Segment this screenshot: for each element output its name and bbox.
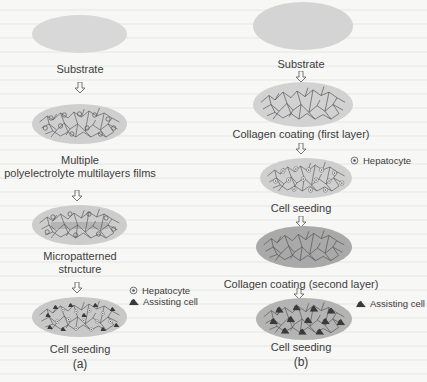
step-label-line1: Micropatterned [43,250,116,263]
panel-caption: (b) [294,356,309,369]
panel-caption: (a) [73,358,88,371]
legend-assisting-cell: Assisting cell [129,296,198,307]
assisting-cell-icon [129,298,139,306]
legend-label: Assisting cell [370,298,425,309]
step-label: Cell seeding [50,343,111,356]
legend-hepatocyte: Hepatocyte [350,155,411,166]
legend-label: Assisting cell [143,296,198,307]
legend-assisting-cell: Assisting cell [356,298,425,309]
step-label: Substrate [56,63,103,76]
step-label: Collagen coating (first layer) [233,128,370,141]
collagen-second-layer-disc [256,226,352,268]
step-label-line1: Multiple [61,154,99,167]
down-arrow-icon [74,82,86,94]
legend-hepatocyte: Hepatocyte [129,285,190,296]
assisting-cell-icon [356,300,366,308]
step-label: Cell seeding [271,202,332,215]
step-label: Cell seeding [271,341,332,354]
down-arrow-icon [71,282,83,294]
step-label-line2: polyelectrolyte multilayers films [4,167,156,180]
step-label: Substrate [277,58,324,71]
down-arrow-icon [295,143,307,155]
collagen-first-layer-disc [253,82,353,127]
down-arrow-icon [71,190,83,202]
legend-label: Hepatocyte [142,285,190,296]
micropatterned-structure-disc [32,205,127,245]
cell-seeding-assisting-disc [256,298,352,340]
cell-seeding-disc [32,297,127,337]
cell-seeding-hepatocyte-disc [260,158,352,198]
legend-label: Hepatocyte [363,155,411,166]
step-label-line2: structure [59,263,102,276]
substrate-disc [253,2,353,50]
substrate-disc [32,15,127,53]
hepatocyte-icon [129,286,138,295]
multilayer-film-disc [32,104,127,144]
